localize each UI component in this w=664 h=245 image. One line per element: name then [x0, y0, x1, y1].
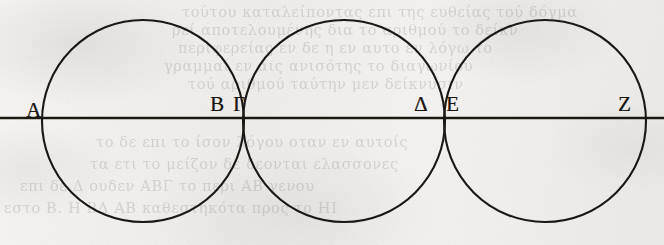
point-label-A: A	[26, 100, 41, 121]
point-label-Z: Z	[618, 94, 631, 115]
point-label-delta: Δ	[414, 94, 428, 115]
point-label-gamma: Γ	[233, 94, 245, 115]
circle-right	[444, 20, 646, 222]
scanned-figure-page: τούτου καταλείποντας επι της ευθείας τού…	[0, 0, 664, 245]
geometric-figure	[0, 0, 664, 245]
circle-left	[42, 20, 244, 222]
point-label-E: E	[446, 94, 459, 115]
point-label-B: B	[210, 94, 224, 115]
circle-middle	[243, 20, 445, 222]
